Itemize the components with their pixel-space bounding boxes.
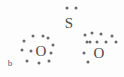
lone-pair-dot-o-left-3 <box>42 35 45 38</box>
bond-dot-s-o-left-lower <box>52 44 55 47</box>
bond-dot-s-o-right-lower <box>89 41 92 44</box>
lone-pair-dot-o-right-2 <box>100 33 103 36</box>
bond-dot-s-o-right-upper <box>84 34 87 37</box>
lone-pair-dot-o-right-5 <box>96 41 99 44</box>
part-label-b: b <box>8 59 13 68</box>
lone-pair-dot-o-left-6 <box>50 52 53 55</box>
lone-pair-dot-o-right-7 <box>115 41 118 44</box>
lone-pair-dot-o-right-9 <box>87 61 90 64</box>
lone-pair-dot-s-top-left <box>66 7 69 10</box>
bond-dot-s-o-left-upper <box>47 37 50 40</box>
oxygen-atom-right: O <box>94 46 105 61</box>
lewis-structure-canvas: SOO b <box>0 0 124 77</box>
lone-pair-dot-o-left-5 <box>30 50 33 53</box>
lone-pair-dot-o-left-9 <box>48 60 51 63</box>
lone-pair-dot-o-right-3 <box>111 35 114 38</box>
lone-pair-dot-o-right-4 <box>86 41 89 44</box>
oxygen-atom-left: O <box>36 44 47 59</box>
lone-pair-dot-o-left-1 <box>23 40 26 43</box>
lone-pair-dot-o-left-2 <box>32 35 35 38</box>
lone-pair-dot-o-left-4 <box>21 49 24 52</box>
lone-pair-dot-o-right-1 <box>91 32 94 35</box>
lone-pair-dot-o-right-8 <box>83 52 86 55</box>
lone-pair-dot-o-right-6 <box>105 41 108 44</box>
lone-pair-dot-o-left-8 <box>38 62 41 65</box>
sulfur-atom: S <box>65 16 73 31</box>
lone-pair-dot-o-left-7 <box>26 60 29 63</box>
lone-pair-dot-s-top-right <box>75 7 78 10</box>
